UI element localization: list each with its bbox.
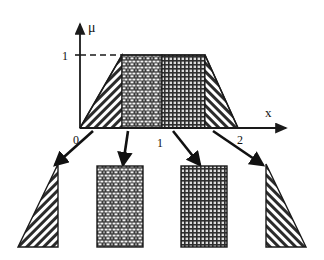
y-axis-label: μ xyxy=(88,20,96,35)
x-tick-label-2: 2 xyxy=(237,133,243,147)
callout-shape-grid-rectangle xyxy=(181,166,227,247)
figure-container: μ x 1 0 1 2 xyxy=(0,0,324,260)
callout-shape-brick-rectangle xyxy=(97,166,143,247)
y-tick-label-1: 1 xyxy=(62,49,68,63)
membership-regions xyxy=(80,55,238,128)
x-axis-label: x xyxy=(265,105,272,120)
membership-function-figure: μ x 1 0 1 2 xyxy=(0,0,324,260)
region-left-plateau xyxy=(122,55,162,128)
callout-arrow-grid-rectangle xyxy=(173,131,200,165)
region-right-plateau xyxy=(162,55,205,128)
callout-shape-left-triangle xyxy=(18,164,58,247)
callout-shapes xyxy=(18,164,306,247)
x-tick-label-1: 1 xyxy=(157,136,163,150)
callout-shape-right-triangle xyxy=(266,164,306,247)
callout-arrow-brick-rectangle xyxy=(123,131,128,165)
